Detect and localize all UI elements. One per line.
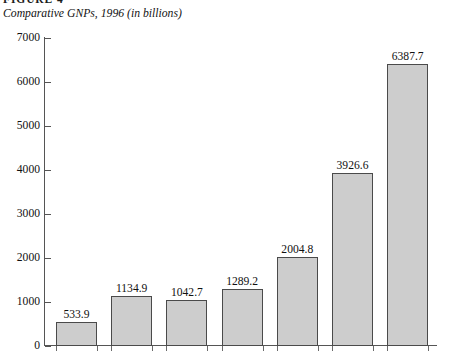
bar [166,300,207,346]
x-axis-tick [277,346,278,351]
y-axis-tick-label-wrap: 7000 [0,32,40,44]
y-axis-tick-label: 6000 [17,76,40,88]
y-axis-tick-label-wrap: 0 [0,340,40,351]
y-axis-tick-label: 0 [34,340,40,351]
y-axis-tick [45,258,51,259]
x-axis-tick [222,346,223,351]
y-axis-tick-label-wrap: 1000 [0,296,40,308]
y-axis-tick-label-wrap: 6000 [0,76,40,88]
x-axis-tick [428,346,429,351]
bar-value-label: 1042.7 [157,287,216,299]
y-axis-tick-label-wrap: 3000 [0,208,40,220]
y-axis-tick-label-wrap: 4000 [0,164,40,176]
bar-value-label: 533.9 [47,309,106,321]
y-axis-tick-label-wrap: 2000 [0,252,40,264]
y-axis-tick-label: 1000 [17,296,40,308]
x-axis-tick [166,346,167,351]
bar [332,173,373,346]
bar [111,296,152,346]
bar-value-label: 6387.7 [378,51,437,63]
x-axis-tick [207,346,208,351]
y-axis-tick [45,82,51,83]
y-axis-line [44,37,45,346]
x-axis-tick [263,346,264,351]
bar-value-label: 1289.2 [213,276,272,288]
x-axis-tick [152,346,153,351]
y-axis-tick-label: 4000 [17,164,40,176]
y-axis-tick [45,126,51,127]
y-axis-tick-label: 3000 [17,208,40,220]
bar-chart: 01000200030004000500060007000 533.91134.… [0,0,450,351]
bar [387,64,428,346]
x-axis-tick [97,346,98,351]
bar [222,289,263,346]
bar-value-label: 2004.8 [268,244,327,256]
y-axis-tick-label: 7000 [17,32,40,44]
bar-value-label: 3926.6 [323,160,382,172]
y-axis-tick [45,38,51,39]
y-axis-tick [45,170,51,171]
x-axis-tick [318,346,319,351]
y-axis-tick-label-wrap: 5000 [0,120,40,132]
x-axis-tick [111,346,112,351]
x-axis-tick [56,346,57,351]
y-axis-tick [45,214,51,215]
bar [56,322,97,346]
bar [277,257,318,346]
x-axis-tick [373,346,374,351]
x-axis-tick [332,346,333,351]
x-axis-tick [387,346,388,351]
y-axis-tick-label: 2000 [17,252,40,264]
y-axis-tick-label: 5000 [17,120,40,132]
bar-value-label: 1134.9 [102,283,161,295]
y-axis-tick [45,302,51,303]
y-axis-tick [45,346,51,347]
